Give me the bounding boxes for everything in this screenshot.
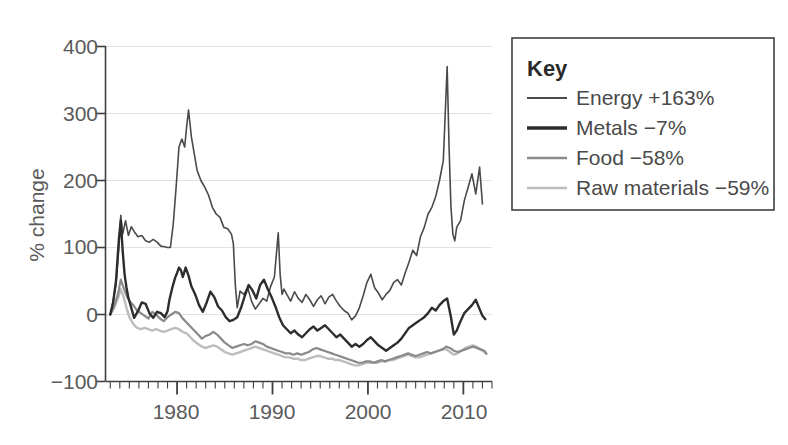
x-tick-label-2010: 2010 — [441, 400, 488, 423]
legend-label-metals: Metals −7% — [576, 116, 686, 139]
x-tick-label-1980: 1980 — [153, 400, 200, 423]
commodity-price-line-chart: 400 300 200 100 0 −100 % change 1980 199… — [0, 0, 788, 445]
x-tick-label-2000: 2000 — [345, 400, 392, 423]
y-tick-label-0: 0 — [86, 303, 98, 326]
y-tick-label-300: 300 — [63, 102, 98, 125]
x-tick-label-1990: 1990 — [249, 400, 296, 423]
legend-label-raw-materials: Raw materials −59% — [576, 176, 769, 199]
y-tick-label-200: 200 — [63, 169, 98, 192]
y-tick-label-minus100: −100 — [51, 370, 98, 393]
legend-label-food: Food −58% — [576, 146, 684, 169]
chart-legend: Key Energy +163% Metals −7% Food −58% Ra… — [512, 38, 774, 210]
legend-title: Key — [527, 56, 568, 81]
legend-label-energy: Energy +163% — [576, 86, 714, 109]
y-tick-label-100: 100 — [63, 235, 98, 258]
y-tick-label-400: 400 — [63, 35, 98, 58]
chart-figure: 400 300 200 100 0 −100 % change 1980 199… — [0, 0, 788, 445]
y-axis-title: % change — [25, 168, 48, 261]
